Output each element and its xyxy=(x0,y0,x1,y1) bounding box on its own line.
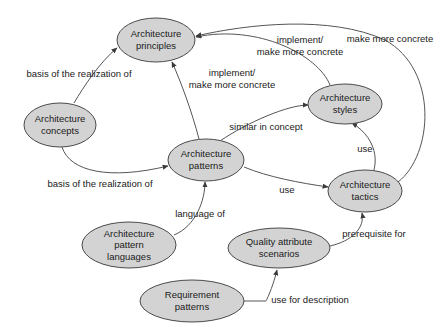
diagram-canvas: ArchitectureprinciplesArchitectureconcep… xyxy=(0,0,447,332)
node-shape-architecture-pattern-languages[interactable] xyxy=(82,222,176,268)
node-architecture-styles[interactable]: Architecturestyles xyxy=(308,84,382,124)
node-shape-architecture-principles[interactable] xyxy=(117,18,195,62)
node-architecture-patterns[interactable]: Architecturepatterns xyxy=(168,139,244,181)
edge-patterns-to-principles xyxy=(172,62,199,139)
node-requirement-patterns[interactable]: Requirementpatterns xyxy=(140,280,244,322)
node-shape-architecture-patterns[interactable] xyxy=(168,139,244,181)
edge-label-requirement-patterns-to-quality: use for description xyxy=(271,294,349,305)
node-architecture-concepts[interactable]: Architectureconcepts xyxy=(24,103,96,147)
edge-label-tactics-to-principles: make more concrete xyxy=(347,33,434,44)
node-shape-architecture-tactics[interactable] xyxy=(328,170,402,212)
edge-concepts-to-patterns xyxy=(62,147,168,173)
edge-label-patterns-to-styles: similar in concept xyxy=(229,121,303,132)
edge-label-styles-to-tactics: use xyxy=(357,143,372,154)
node-shape-requirement-patterns[interactable] xyxy=(140,280,244,322)
nodes-layer: ArchitectureprinciplesArchitectureconcep… xyxy=(24,18,402,322)
edge-label-patterns-to-principles: implement/make more concrete xyxy=(189,67,276,90)
edge-label-concepts-to-patterns: basis of the realization of xyxy=(47,178,152,189)
node-shape-quality-attribute-scenarios[interactable] xyxy=(228,228,330,268)
edge-label-concepts-to-principles: basis of the realization of xyxy=(26,68,131,79)
node-architecture-pattern-languages[interactable]: Architecturepatternlanguages xyxy=(82,222,176,268)
edge-label-patterns-to-tactics: use xyxy=(279,184,294,195)
edge-label-tactics-to-quality-attribute-scenarios: prerequisite for xyxy=(342,228,405,239)
edge-label-styles-to-principles: implement/make more concrete xyxy=(257,34,344,57)
concept-map-diagram: ArchitectureprinciplesArchitectureconcep… xyxy=(0,0,447,332)
node-quality-attribute-scenarios[interactable]: Quality attributescenarios xyxy=(228,228,330,268)
node-architecture-tactics[interactable]: Architecturetactics xyxy=(328,170,402,212)
node-shape-architecture-styles[interactable] xyxy=(308,84,382,124)
edge-label-pattern-languages-to-patterns: language of xyxy=(175,208,225,219)
node-architecture-principles[interactable]: Architectureprinciples xyxy=(117,18,195,62)
node-shape-architecture-concepts[interactable] xyxy=(24,103,96,147)
